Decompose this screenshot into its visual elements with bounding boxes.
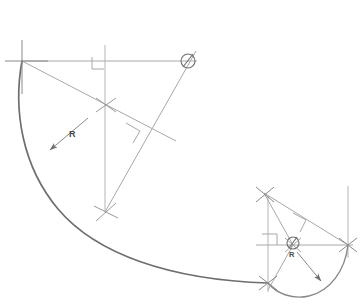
right-angle-mark-mid-rotated — [126, 123, 140, 143]
technical-drawing-canvas: R — [0, 0, 360, 307]
main-construction-group: R — [5, 40, 268, 283]
detail-radius-label: R — [289, 250, 295, 259]
detail-arc — [268, 245, 348, 297]
cad-drawing-svg: R — [0, 0, 360, 307]
center-crosshair-main — [96, 98, 116, 112]
right-angle-mark-detail-rotated — [293, 213, 306, 232]
main-arc — [19, 61, 268, 283]
detail-construction-group: R — [256, 186, 357, 297]
start-crosshair-main — [5, 40, 48, 94]
main-radius-label: R — [69, 129, 76, 139]
main-radial-construction-line — [105, 51, 196, 212]
right-angle-mark-detail-left — [262, 234, 277, 245]
detail-radius-leader-arrow — [297, 252, 321, 281]
right-angle-mark-top — [92, 57, 104, 69]
detail-upper-crosshair — [256, 187, 274, 202]
lower-crosshair-main — [94, 203, 118, 221]
main-chord-construction-line — [22, 61, 176, 141]
